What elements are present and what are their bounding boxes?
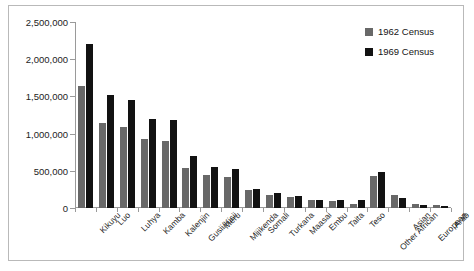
- bar-group: [141, 22, 156, 208]
- chart-container: 2,500,0002,000,0001,500,0001,000,000500,…: [8, 5, 464, 261]
- legend-label-1969: 1969 Census: [378, 46, 434, 57]
- bar: [141, 139, 148, 208]
- bar: [420, 205, 427, 208]
- bar: [232, 169, 239, 208]
- bar: [399, 198, 406, 208]
- bar: [203, 175, 210, 208]
- chart-legend: 1962 Census 1969 Census: [365, 26, 434, 66]
- y-axis-tick-label: 2,000,000: [26, 54, 68, 65]
- x-axis-labels: KikuyuLuoLuhyaKambaKalenjinGusii/KisiiMe…: [75, 210, 451, 270]
- bar: [149, 119, 156, 208]
- bar: [337, 200, 344, 208]
- bar: [295, 196, 302, 208]
- legend-label-1962: 1962 Census: [378, 26, 434, 37]
- y-axis-tick-label: 0: [63, 203, 68, 214]
- legend-swatch-icon-1969: [365, 48, 373, 56]
- bar: [329, 201, 336, 208]
- bar-group: [203, 22, 218, 208]
- bar: [308, 200, 315, 208]
- bar-group: [350, 22, 365, 208]
- bar: [190, 156, 197, 208]
- y-axis-tick-label: 1,000,000: [26, 128, 68, 139]
- bar-group: [287, 22, 302, 208]
- bar: [99, 123, 106, 208]
- bar: [391, 195, 398, 208]
- bar-group: [224, 22, 239, 208]
- bar-group: [162, 22, 177, 208]
- bar-group: [182, 22, 197, 208]
- bar: [253, 189, 260, 208]
- bar: [350, 204, 357, 208]
- bar: [274, 193, 281, 208]
- x-axis-label: Teso: [367, 210, 387, 230]
- bar-group: [266, 22, 281, 208]
- bar-group: [433, 22, 448, 208]
- bar: [378, 172, 385, 208]
- x-axis-tick: [451, 208, 452, 212]
- bar: [128, 100, 135, 208]
- bar: [245, 190, 252, 208]
- bar: [441, 206, 448, 208]
- bar: [120, 127, 127, 208]
- bar: [182, 168, 189, 208]
- bar: [287, 197, 294, 208]
- bar: [266, 195, 273, 208]
- bar: [370, 176, 377, 208]
- legend-item-1962: 1962 Census: [365, 26, 434, 37]
- x-axis-label: Luhya: [139, 210, 162, 233]
- legend-swatch-icon-1962: [365, 28, 373, 36]
- bar-group: [329, 22, 344, 208]
- bar-group: [78, 22, 93, 208]
- y-axis-tick-label: 1,500,000: [26, 91, 68, 102]
- bar: [358, 200, 365, 208]
- bar: [86, 44, 93, 208]
- bar-group: [308, 22, 323, 208]
- bar: [316, 200, 323, 208]
- bar: [433, 205, 440, 208]
- legend-item-1969: 1969 Census: [365, 46, 434, 57]
- bar: [78, 86, 85, 208]
- bar-group: [245, 22, 260, 208]
- bar: [107, 95, 114, 208]
- bar: [224, 177, 231, 208]
- bar: [211, 167, 218, 208]
- bar-group: [120, 22, 135, 208]
- bar: [162, 141, 169, 208]
- bar: [412, 204, 419, 208]
- bar: [170, 120, 177, 208]
- x-axis-label: Taita: [346, 210, 366, 230]
- y-axis-tick-label: 500,000: [34, 165, 68, 176]
- y-axis-tick-label: 2,500,000: [26, 17, 68, 28]
- bar-group: [99, 22, 114, 208]
